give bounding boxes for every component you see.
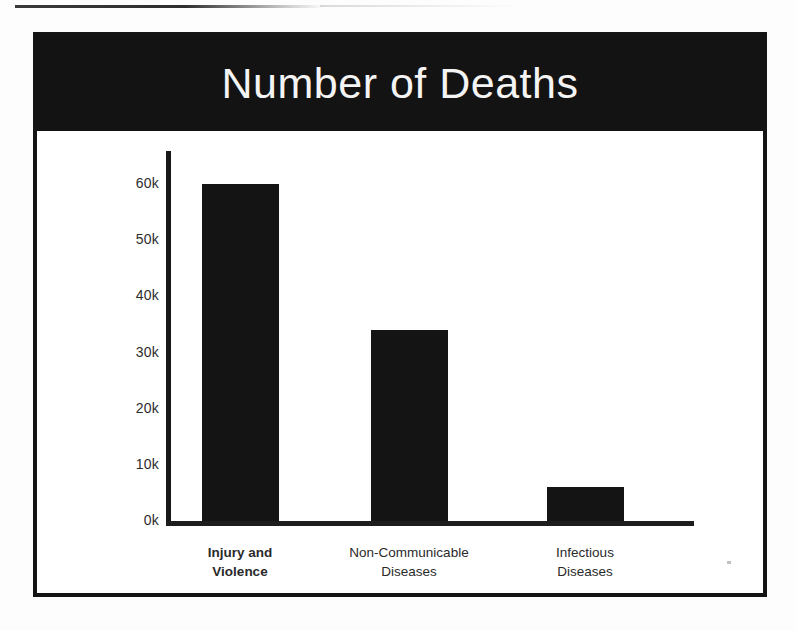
y-axis-tick-label: 40k bbox=[101, 287, 159, 303]
y-axis-tick-label: 0k bbox=[101, 512, 159, 528]
x-axis-category-label-line: Diseases bbox=[505, 562, 665, 581]
y-axis-tick-label: 60k bbox=[101, 175, 159, 191]
scan-line-artifact bbox=[15, 5, 325, 8]
y-axis-tick-label: 50k bbox=[101, 231, 159, 247]
chart-plot-area: 0k10k20k30k40k50k60k Injury andViolenceN… bbox=[37, 131, 763, 593]
y-axis-tick-label: 20k bbox=[101, 400, 159, 416]
scan-line-artifact-fade bbox=[320, 5, 520, 7]
bar bbox=[547, 487, 624, 521]
x-axis-baseline bbox=[166, 521, 694, 526]
x-axis-category-label: InfectiousDiseases bbox=[505, 543, 665, 581]
bar bbox=[202, 184, 279, 521]
x-axis-category-label-line: Non-Communicable bbox=[304, 543, 514, 562]
page-title: Number of Deaths bbox=[222, 62, 579, 105]
y-axis-tick-label: 10k bbox=[101, 456, 159, 472]
y-axis-tick-labels: 0k10k20k30k40k50k60k bbox=[97, 131, 159, 593]
x-axis-category-label: Non-CommunicableDiseases bbox=[304, 543, 514, 581]
x-axis-category-label-line: Infectious bbox=[505, 543, 665, 562]
slide-frame: Number of Deaths 0k10k20k30k40k50k60k In… bbox=[33, 32, 767, 597]
x-axis-category-label-line: Injury and bbox=[155, 543, 325, 562]
dust-speck-artifact bbox=[727, 561, 731, 564]
bar bbox=[371, 330, 448, 521]
screenshot-page: Number of Deaths 0k10k20k30k40k50k60k In… bbox=[0, 0, 796, 630]
title-banner: Number of Deaths bbox=[37, 36, 763, 131]
x-axis-category-label: Injury andViolence bbox=[155, 543, 325, 581]
y-axis-tick-label: 30k bbox=[101, 344, 159, 360]
x-axis-category-label-line: Diseases bbox=[304, 562, 514, 581]
y-axis-line bbox=[166, 151, 171, 526]
x-axis-category-label-line: Violence bbox=[155, 562, 325, 581]
